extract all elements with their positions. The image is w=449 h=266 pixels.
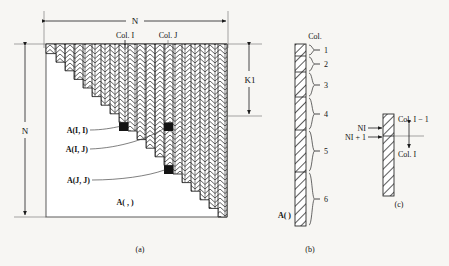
caption-a: (a)	[136, 245, 145, 254]
panel-b-segment-numbers: 1 2 3 4 5 6	[324, 46, 328, 204]
callout-a-i-i-label: A(I, I)	[67, 126, 89, 135]
cell-a-i-i	[119, 122, 128, 131]
col-i-label: Col. I	[116, 31, 135, 40]
dim-k1-label: K1	[245, 75, 256, 85]
panel-c-ni-label: NI	[358, 124, 367, 133]
panel-b-brace-ticks	[315, 50, 321, 199]
panel-b-strip	[295, 44, 306, 226]
diagram-svg: N N K1	[0, 0, 449, 266]
panel-b-num-4: 4	[324, 110, 328, 119]
dimension-left-n: N	[17, 46, 34, 215]
cell-a-i-j	[164, 122, 173, 131]
panel-c-col-above-label: Col. I − 1	[398, 115, 429, 124]
panel-b-braces	[309, 45, 315, 225]
caption-b: (b)	[305, 245, 315, 254]
panel-c-ni-arrows	[368, 128, 382, 137]
caption-c: (c)	[395, 200, 404, 209]
panel-c-col-divider	[394, 124, 424, 148]
col-j-label: Col. J	[159, 31, 178, 40]
panel-c-ni-plus-one-label: NI + 1	[345, 133, 366, 142]
callout-a-i-j-label: A(I, J)	[66, 145, 89, 154]
panel-b-array-label: A( )	[278, 211, 291, 220]
panel-b-num-5: 5	[324, 147, 328, 156]
dim-n-left-label: N	[22, 126, 29, 136]
panel-b-num-6: 6	[324, 195, 328, 204]
callout-a-j-j-label: A(J, J)	[67, 176, 90, 185]
matrix-a-label: A( , )	[116, 198, 133, 207]
dimension-top-n: N	[46, 13, 226, 28]
panel-b-num-2: 2	[324, 60, 328, 69]
panel-b-header-label: Col.	[308, 32, 322, 41]
panel-b-num-1: 1	[324, 46, 328, 55]
panel-c-strip	[383, 114, 394, 196]
dim-n-top-label: N	[132, 16, 139, 26]
panel-b-num-3: 3	[324, 81, 328, 90]
figure-canvas: N N K1	[0, 0, 449, 266]
cell-a-j-j	[164, 165, 173, 174]
panel-c-col-below-label: Col. I	[398, 150, 417, 159]
dimension-right-k1: K1	[240, 46, 260, 114]
